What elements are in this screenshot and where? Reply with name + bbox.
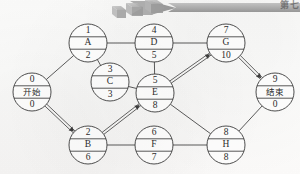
node-D[interactable]: 4D5	[135, 24, 173, 62]
edge-start-B	[45, 104, 75, 133]
node-C[interactable]: 3C3	[91, 63, 129, 101]
node-E-bottom-value: 8	[153, 100, 158, 110]
nodes-layer: 0开始01A23C32B64D55E86F77G108H89结束0	[13, 24, 294, 164]
node-start[interactable]: 0开始0	[13, 73, 51, 111]
node-C-top-value: 3	[108, 64, 113, 74]
node-F-label: F	[151, 139, 156, 149]
node-A-top-value: 1	[86, 25, 91, 35]
edge-start-A	[46, 56, 73, 80]
edge-B-E	[102, 104, 141, 135]
node-end-top-value: 9	[273, 74, 278, 84]
node-A[interactable]: 1A2	[69, 24, 107, 62]
node-A-bottom-value: 2	[86, 50, 91, 60]
edge-C-E	[128, 87, 136, 89]
node-F-top-value: 6	[152, 127, 157, 137]
node-end[interactable]: 9结束0	[256, 73, 294, 111]
activity-network-graph: 0开始01A23C32B64D55E86F77G108H89结束0	[0, 0, 300, 174]
node-E[interactable]: 5E8	[136, 74, 174, 112]
edge-E-H	[170, 104, 210, 134]
node-G-top-value: 7	[224, 25, 229, 35]
edge-E-G	[170, 53, 211, 83]
node-H-top-value: 8	[224, 127, 229, 137]
node-G[interactable]: 7G10	[207, 24, 245, 62]
node-F-bottom-value: 7	[152, 152, 157, 162]
node-end-bottom-value: 0	[273, 99, 278, 109]
edge-G-end	[239, 56, 263, 80]
node-D-bottom-value: 5	[152, 50, 157, 60]
node-start-bottom-value: 0	[30, 99, 35, 109]
node-B-top-value: 2	[86, 127, 91, 137]
node-H-bottom-value: 8	[224, 152, 229, 162]
node-B-label: B	[85, 139, 91, 149]
node-A-label: A	[85, 37, 92, 47]
node-E-top-value: 5	[153, 75, 158, 85]
node-D-label: D	[151, 37, 158, 47]
edge-H-end	[239, 106, 262, 131]
node-E-label: E	[152, 87, 158, 97]
node-C-label: C	[107, 76, 113, 86]
node-G-label: G	[223, 37, 230, 47]
node-H-label: H	[223, 139, 230, 149]
figure-page: 第七 0开始01A23C32B64D55E86F77G108H89结束0	[0, 0, 300, 174]
node-D-top-value: 4	[152, 25, 157, 35]
node-B-bottom-value: 6	[86, 152, 91, 162]
node-start-label: 开始	[23, 87, 41, 97]
node-F[interactable]: 6F7	[135, 126, 173, 164]
node-C-bottom-value: 3	[108, 89, 113, 99]
node-H[interactable]: 8H8	[207, 126, 245, 164]
edge-A-C	[97, 60, 100, 66]
node-B[interactable]: 2B6	[69, 126, 107, 164]
node-end-label: 结束	[266, 87, 284, 97]
node-G-bottom-value: 10	[221, 50, 231, 60]
node-start-top-value: 0	[30, 74, 35, 84]
